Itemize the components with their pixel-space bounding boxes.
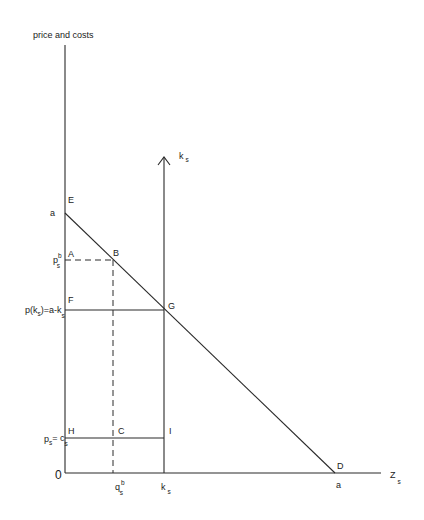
point-label-B: B [113, 248, 119, 258]
point-label-A: A [68, 249, 74, 259]
x-axis-label: Zs [390, 470, 402, 485]
point-label-F: F [68, 295, 74, 305]
origin-label: 0 [55, 468, 62, 482]
y-tick-p-b: pbs [53, 252, 62, 269]
demand-line [65, 213, 335, 473]
point-label-D: D [337, 461, 344, 471]
point-label-E: E [68, 195, 74, 205]
y-tick-p-k: p(ks)=a-ks [25, 305, 66, 319]
x-tick-k: ks [161, 482, 172, 495]
point-label-C: C [118, 426, 125, 436]
capacity-axis-label: ks [179, 151, 190, 163]
point-label-G: G [168, 301, 175, 311]
point-label-I: I [169, 426, 172, 436]
x-tick-q-b: qbs [115, 479, 125, 496]
y-tick-a: a [50, 208, 55, 218]
y-axis-title: price and costs [33, 30, 94, 40]
economics-diagram: price and costs ks E A B F G H C I D a p… [0, 0, 424, 520]
point-label-H: H [68, 426, 75, 436]
x-tick-a: a [336, 480, 341, 490]
